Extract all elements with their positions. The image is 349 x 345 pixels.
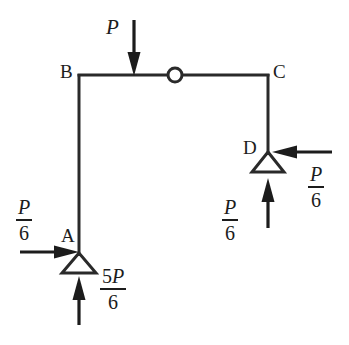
fraction-denominator: 6: [222, 222, 238, 243]
force-reaction-A-vertical: [73, 276, 86, 325]
force-label-reaction-A-vertical: 5P 6: [100, 266, 126, 312]
structure-members: [78, 74, 270, 256]
fraction-bar: [222, 219, 238, 221]
fraction-numerator: P: [16, 197, 32, 218]
force-label-reaction-D-vertical: P 6: [222, 197, 238, 243]
internal-hinge-icon: [168, 68, 182, 82]
force-label-reaction-A-horizontal: P 6: [16, 197, 32, 243]
frame-diagram: B C D A P P 6 5P 6 P 6 P 6: [0, 0, 349, 345]
fraction-bar: [308, 186, 324, 188]
force-label-applied-P: P: [106, 17, 119, 38]
fraction-numerator-coefficient: 5: [102, 265, 112, 287]
force-reaction-A-horizontal: [20, 246, 79, 259]
fraction-denominator: 6: [100, 291, 126, 312]
force-label-reaction-D-horizontal: P 6: [308, 164, 324, 210]
fraction-bar: [100, 288, 126, 290]
fraction-bar: [16, 219, 32, 221]
fraction-denominator: 6: [16, 222, 32, 243]
force-reaction-D-horizontal: [272, 146, 332, 159]
fraction-numerator: 5P: [100, 266, 126, 287]
force-reaction-D-vertical: [262, 178, 275, 228]
fraction-numerator: P: [308, 164, 324, 185]
frame-geometry-svg: [0, 0, 349, 345]
joint-label-A: A: [61, 226, 75, 245]
joint-label-B: B: [60, 62, 73, 81]
joint-label-D: D: [243, 138, 257, 157]
fraction-denominator: 6: [308, 189, 324, 210]
fraction-numerator-variable: P: [112, 265, 124, 287]
fraction-numerator: P: [222, 197, 238, 218]
joint-label-C: C: [273, 62, 286, 81]
force-applied-load-P: [128, 20, 141, 76]
